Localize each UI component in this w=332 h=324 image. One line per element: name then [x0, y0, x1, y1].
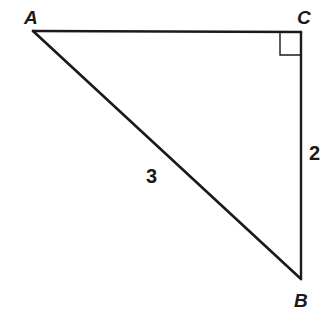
- vertex-label-a: A: [23, 7, 38, 28]
- side-label-cb: 2: [309, 142, 320, 164]
- triangle-diagram: A C B 3 2: [0, 0, 332, 324]
- vertex-label-b: B: [294, 290, 308, 311]
- vertex-label-c: C: [297, 7, 311, 28]
- right-angle-marker: [280, 32, 301, 55]
- side-ab: [33, 31, 301, 279]
- side-ac: [33, 31, 301, 32]
- side-label-ab: 3: [146, 165, 157, 187]
